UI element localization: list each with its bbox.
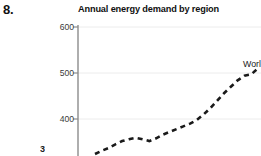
- y-tick-400: 400: [44, 119, 74, 120]
- series-label-world: World: [243, 60, 261, 69]
- line-chart-plot: [0, 0, 261, 156]
- y-tick-600: 600: [44, 27, 74, 28]
- y-tick-500: 500: [44, 73, 74, 74]
- figure-container: 8. Annual energy demand by region 600 50…: [0, 0, 261, 156]
- series-line-world: [95, 68, 258, 154]
- x-axis-clipped-tick-label: 3: [40, 145, 45, 156]
